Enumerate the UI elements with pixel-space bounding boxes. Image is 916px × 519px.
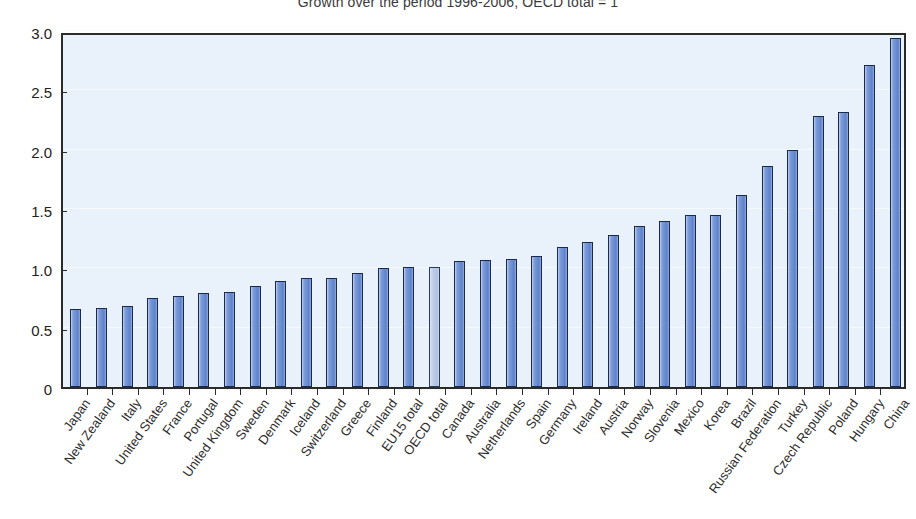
x-tick-label: China [880, 396, 912, 432]
x-tick-label: Korea [701, 396, 734, 433]
x-axis-labels: JapanNew ZealandItalyUnited StatesFrance… [0, 0, 916, 519]
bar-chart: Growth over the period 1996-2006, OECD t… [0, 0, 916, 519]
